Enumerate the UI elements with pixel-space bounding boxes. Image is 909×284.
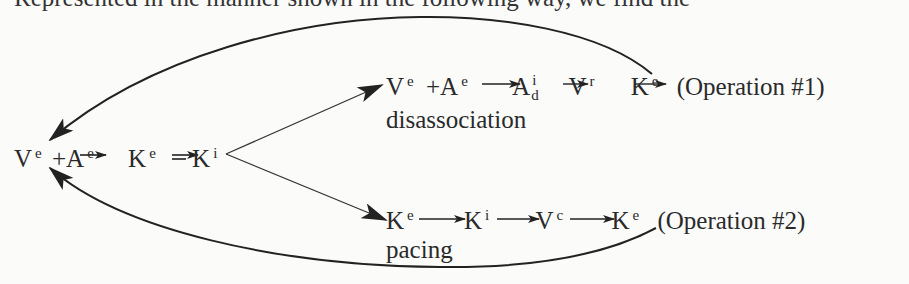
operation1-caption: disassociation [386, 106, 526, 134]
operation2-chain: Ke Ki Vc Ke (Operation #2) [386, 208, 805, 233]
node-V-r: Vr [568, 73, 594, 100]
node-K-e: Ke [386, 207, 414, 234]
operation2-label: (Operation #2) [657, 207, 805, 234]
node-K-e: Ke [631, 73, 659, 100]
node-A-e: Ae [66, 145, 94, 172]
node-K-i: Ki [192, 145, 217, 172]
start-chain: Ve +Ae Ke Ki [14, 146, 217, 171]
node-K-i: Ki [464, 207, 489, 234]
node-A-e: Ae [440, 73, 468, 100]
diagram-arrows [0, 0, 909, 284]
node-A-i-d: Aid [512, 73, 540, 100]
plus-operator: + [52, 145, 66, 172]
branch-arrow-op1 [226, 85, 382, 154]
plus-operator: + [426, 73, 440, 100]
node-V-e: Ve [386, 73, 414, 100]
node-V-e: Ve [14, 145, 42, 172]
operation1-chain: Ve +Ae Aid Vr Ke (Operation #1) [386, 74, 825, 99]
operation2-caption: pacing [386, 236, 453, 264]
node-K-e: Ke [128, 145, 156, 172]
operation1-label: (Operation #1) [677, 73, 825, 100]
node-V-c: Vc [535, 207, 563, 234]
branch-arrow-op2 [226, 154, 386, 220]
node-K-e-end: Ke [611, 207, 639, 234]
